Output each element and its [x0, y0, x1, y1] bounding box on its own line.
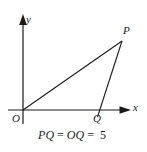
segment-OP	[23, 41, 122, 110]
x-axis-arrowhead-icon	[120, 106, 132, 114]
geometry-figure: y x O Q P PQ=OQ=5	[0, 0, 147, 152]
caption-term-1: PQ	[38, 128, 54, 142]
caption-value: 5	[100, 128, 106, 142]
y-axis-label: y	[26, 14, 31, 25]
x-axis-label: x	[133, 102, 138, 113]
caption-equals-2: =	[87, 128, 94, 142]
point-label-O: O	[12, 113, 20, 124]
point-label-Q: Q	[93, 113, 101, 124]
caption-equals-1: =	[57, 128, 64, 142]
figure-caption: PQ=OQ=5	[0, 129, 147, 142]
segment-PQ	[98, 41, 123, 117]
caption-term-2: OQ	[67, 128, 84, 142]
point-label-P: P	[123, 25, 130, 36]
